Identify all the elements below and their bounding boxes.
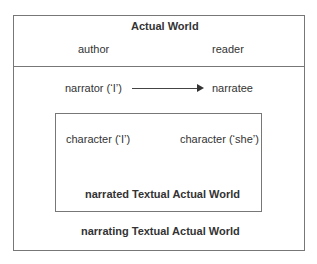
actual-world-title: Actual World [131, 20, 199, 33]
narrating-world-label: narrating Textual Actual World [81, 225, 240, 238]
narrated-world-label: narrated Textual Actual World [85, 188, 240, 201]
character-she-label: character (‘she’) [180, 133, 259, 146]
narrator-label: narrator (‘I’) [65, 82, 122, 95]
arrow-line [132, 88, 198, 89]
actual-world-divider [13, 66, 305, 67]
right-arrow-icon [197, 84, 204, 92]
character-i-label: character (‘I’) [66, 133, 130, 146]
author-label: author [78, 43, 109, 56]
reader-label: reader [212, 43, 244, 56]
narratee-label: narratee [212, 82, 253, 95]
